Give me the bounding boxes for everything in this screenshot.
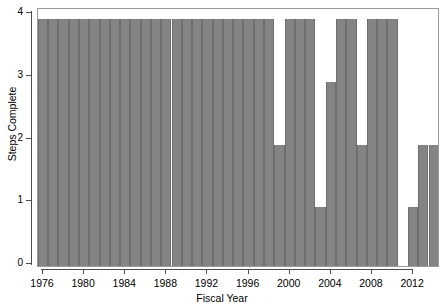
bar xyxy=(89,19,99,267)
x-axis-tick-label: 2008 xyxy=(351,277,391,289)
x-axis-tick-label: 2000 xyxy=(269,277,309,289)
bar xyxy=(48,19,58,267)
plot-panel xyxy=(37,8,439,267)
x-axis-tick xyxy=(42,269,43,274)
bar xyxy=(130,19,140,267)
x-axis-tick-label: 1976 xyxy=(22,277,62,289)
bar xyxy=(295,19,305,267)
bar xyxy=(367,19,377,267)
bar xyxy=(264,19,274,267)
x-axis-tick-label: 1992 xyxy=(186,277,226,289)
x-axis-title: Fiscal Year xyxy=(0,292,444,304)
y-axis-tick xyxy=(26,12,31,13)
x-axis-tick xyxy=(124,269,125,274)
bar xyxy=(408,207,418,267)
bar xyxy=(254,19,264,267)
y-axis-tick xyxy=(26,200,31,201)
bar xyxy=(192,19,202,267)
bar xyxy=(357,145,367,268)
bar xyxy=(202,19,212,267)
bar xyxy=(172,19,182,267)
x-axis-tick xyxy=(83,269,84,274)
x-axis-tick xyxy=(165,269,166,274)
y-axis-tick-label: 1 xyxy=(0,195,23,205)
bar xyxy=(110,19,120,267)
bar xyxy=(387,19,397,267)
x-axis-tick xyxy=(206,269,207,274)
bar xyxy=(120,19,130,267)
bar xyxy=(418,145,428,268)
bar xyxy=(233,19,243,267)
bar xyxy=(326,82,336,267)
bar xyxy=(141,19,151,267)
x-axis-tick-label: 1988 xyxy=(145,277,185,289)
y-axis-tick-label: 2 xyxy=(0,133,23,143)
y-axis-tick-label: 3 xyxy=(0,70,23,80)
bar xyxy=(223,19,233,267)
y-axis-title: Steps Complete xyxy=(6,76,18,172)
x-axis-tick xyxy=(248,269,249,274)
x-axis-tick-label: 2004 xyxy=(310,277,350,289)
bar xyxy=(377,19,387,267)
y-axis-tick xyxy=(26,138,31,139)
bar xyxy=(285,19,295,267)
bar xyxy=(315,207,325,267)
x-axis-tick-label: 1984 xyxy=(104,277,144,289)
x-axis-tick-label: 1996 xyxy=(228,277,268,289)
y-axis-tick xyxy=(26,75,31,76)
bar xyxy=(336,19,346,267)
bar xyxy=(69,19,79,267)
y-axis-tick xyxy=(26,263,31,264)
bar xyxy=(274,145,284,268)
bar xyxy=(151,19,161,267)
y-axis-tick-label: 0 xyxy=(0,258,23,268)
bar xyxy=(243,19,253,267)
bar xyxy=(58,19,68,267)
x-axis-line xyxy=(41,269,413,270)
x-axis-tick xyxy=(412,269,413,274)
x-axis-tick xyxy=(330,269,331,274)
bar xyxy=(346,19,356,267)
bar xyxy=(100,19,110,267)
y-axis-tick-label: 4 xyxy=(0,7,23,17)
bars-layer xyxy=(38,9,438,266)
bar xyxy=(79,19,89,267)
x-axis-tick-label: 1980 xyxy=(63,277,103,289)
bar xyxy=(38,19,48,267)
bar xyxy=(182,19,192,267)
x-axis-tick-label: 2012 xyxy=(392,277,432,289)
bar xyxy=(305,19,315,267)
bar-chart: Steps Complete 01234 1976198019841988199… xyxy=(0,0,444,307)
x-axis-tick xyxy=(289,269,290,274)
bar xyxy=(429,145,439,268)
x-axis-tick xyxy=(371,269,372,274)
bar xyxy=(213,19,223,267)
bar xyxy=(161,19,171,267)
y-axis-line xyxy=(31,11,32,265)
